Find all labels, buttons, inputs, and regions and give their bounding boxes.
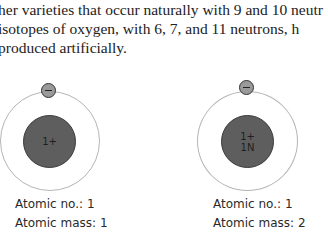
atomic-mass-label: Atomic mass: 2 <box>213 216 306 230</box>
paragraph-line: her varieties that occur naturally with … <box>0 0 328 19</box>
electron-icon <box>239 80 254 95</box>
nucleus: 1+ 1N <box>221 115 274 168</box>
electron-icon <box>41 83 56 98</box>
atomic-number-label: Atomic no.: 1 <box>213 197 293 211</box>
nucleus-neutron: 1N <box>241 142 255 153</box>
nucleus-charge: 1+ <box>240 131 255 142</box>
atomic-number-label: Atomic no.: 1 <box>15 197 95 211</box>
paragraph-line: produced artificially. <box>0 38 328 57</box>
nucleus-charge: 1+ <box>42 136 57 147</box>
nucleus: 1+ <box>23 115 76 168</box>
atomic-mass-label: Atomic mass: 1 <box>15 216 108 230</box>
body-paragraph: her varieties that occur naturally with … <box>0 0 328 57</box>
paragraph-line: isotopes of oxygen, with 6, 7, and 11 ne… <box>0 19 328 38</box>
